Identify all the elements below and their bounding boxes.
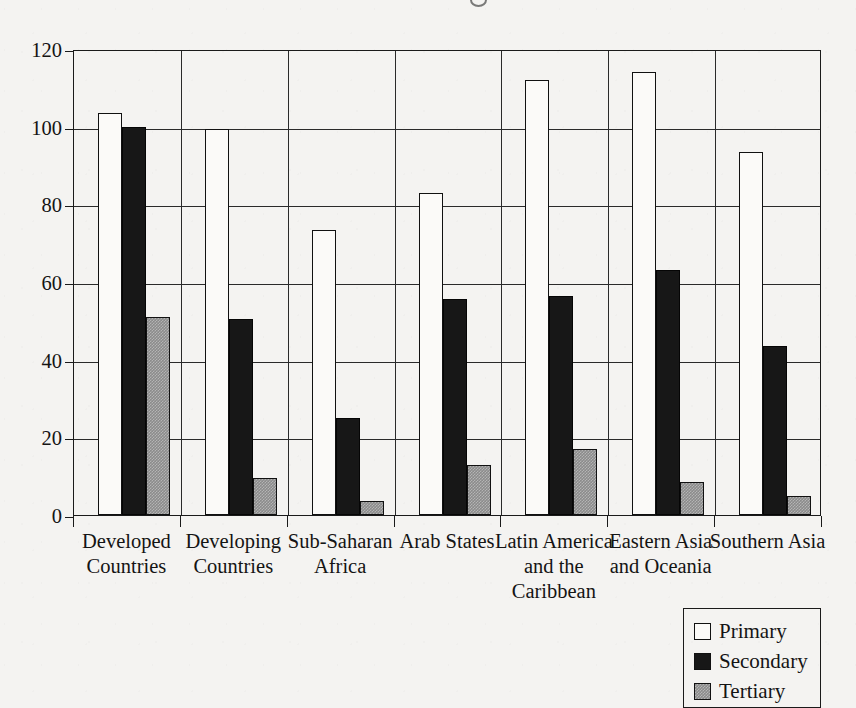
legend-item-tertiary[interactable]: Tertiary [694, 676, 820, 706]
bar-tertiary [573, 449, 597, 515]
bar-tertiary [146, 317, 170, 515]
bar-group [608, 51, 715, 515]
bar-group [288, 51, 395, 515]
legend-item-secondary[interactable]: Secondary [694, 646, 820, 676]
bar-secondary [229, 319, 253, 515]
category-label: Southern Asia [702, 529, 833, 554]
bar-group [74, 51, 181, 515]
legend-swatch-secondary-icon [694, 653, 711, 670]
x-axis-tick [287, 516, 288, 527]
bar-primary [419, 193, 443, 515]
x-axis-tick [821, 516, 822, 527]
legend-label: Tertiary [719, 681, 785, 702]
bar-secondary [763, 346, 787, 515]
legend-label: Secondary [719, 651, 808, 672]
bar-primary [632, 72, 656, 515]
bar-secondary [656, 270, 680, 515]
bar-secondary [549, 296, 573, 515]
x-axis-tick [394, 516, 395, 527]
clipped-glyph-remnant [470, 0, 487, 7]
y-axis-label-40: 40 [0, 350, 62, 371]
bar-primary [525, 80, 549, 515]
bar-tertiary [253, 478, 277, 515]
bar-tertiary [360, 501, 384, 515]
legend-swatch-primary-icon [694, 623, 711, 640]
y-axis-tick [65, 439, 74, 440]
bar-tertiary [787, 496, 811, 515]
x-axis-tick [500, 516, 501, 527]
x-axis-tick [607, 516, 608, 527]
bar-group [715, 51, 822, 515]
bar-group [501, 51, 608, 515]
bar-primary [739, 152, 763, 515]
y-axis-tick [65, 362, 74, 363]
y-axis-label-60: 60 [0, 273, 62, 294]
bar-primary [312, 230, 336, 515]
bar-group [395, 51, 502, 515]
y-axis-tick [65, 51, 74, 52]
y-axis-label-120: 120 [0, 40, 62, 61]
legend-swatch-tertiary-icon [694, 683, 711, 700]
bar-secondary [443, 299, 467, 515]
bar-secondary [122, 127, 146, 515]
bar-tertiary [680, 482, 704, 515]
legend-label: Primary [719, 621, 787, 642]
y-axis-label-80: 80 [0, 195, 62, 216]
legend-item-primary[interactable]: Primary [694, 616, 820, 646]
x-axis-tick [180, 516, 181, 527]
bar-secondary [336, 418, 360, 515]
x-axis-tick [73, 516, 74, 527]
bar-tertiary [467, 465, 491, 515]
y-axis-tick [65, 206, 74, 207]
y-axis-label-100: 100 [0, 117, 62, 138]
x-axis-tick [714, 516, 715, 527]
chart-legend: PrimarySecondaryTertiary [683, 608, 821, 708]
y-axis-tick [65, 129, 74, 130]
x-axis-ticks [0, 516, 856, 530]
bar-primary [98, 113, 122, 515]
plot-area [73, 50, 821, 516]
y-axis-label-20: 20 [0, 428, 62, 449]
bar-group [181, 51, 288, 515]
y-axis-tick [65, 284, 74, 285]
bar-primary [205, 129, 229, 515]
